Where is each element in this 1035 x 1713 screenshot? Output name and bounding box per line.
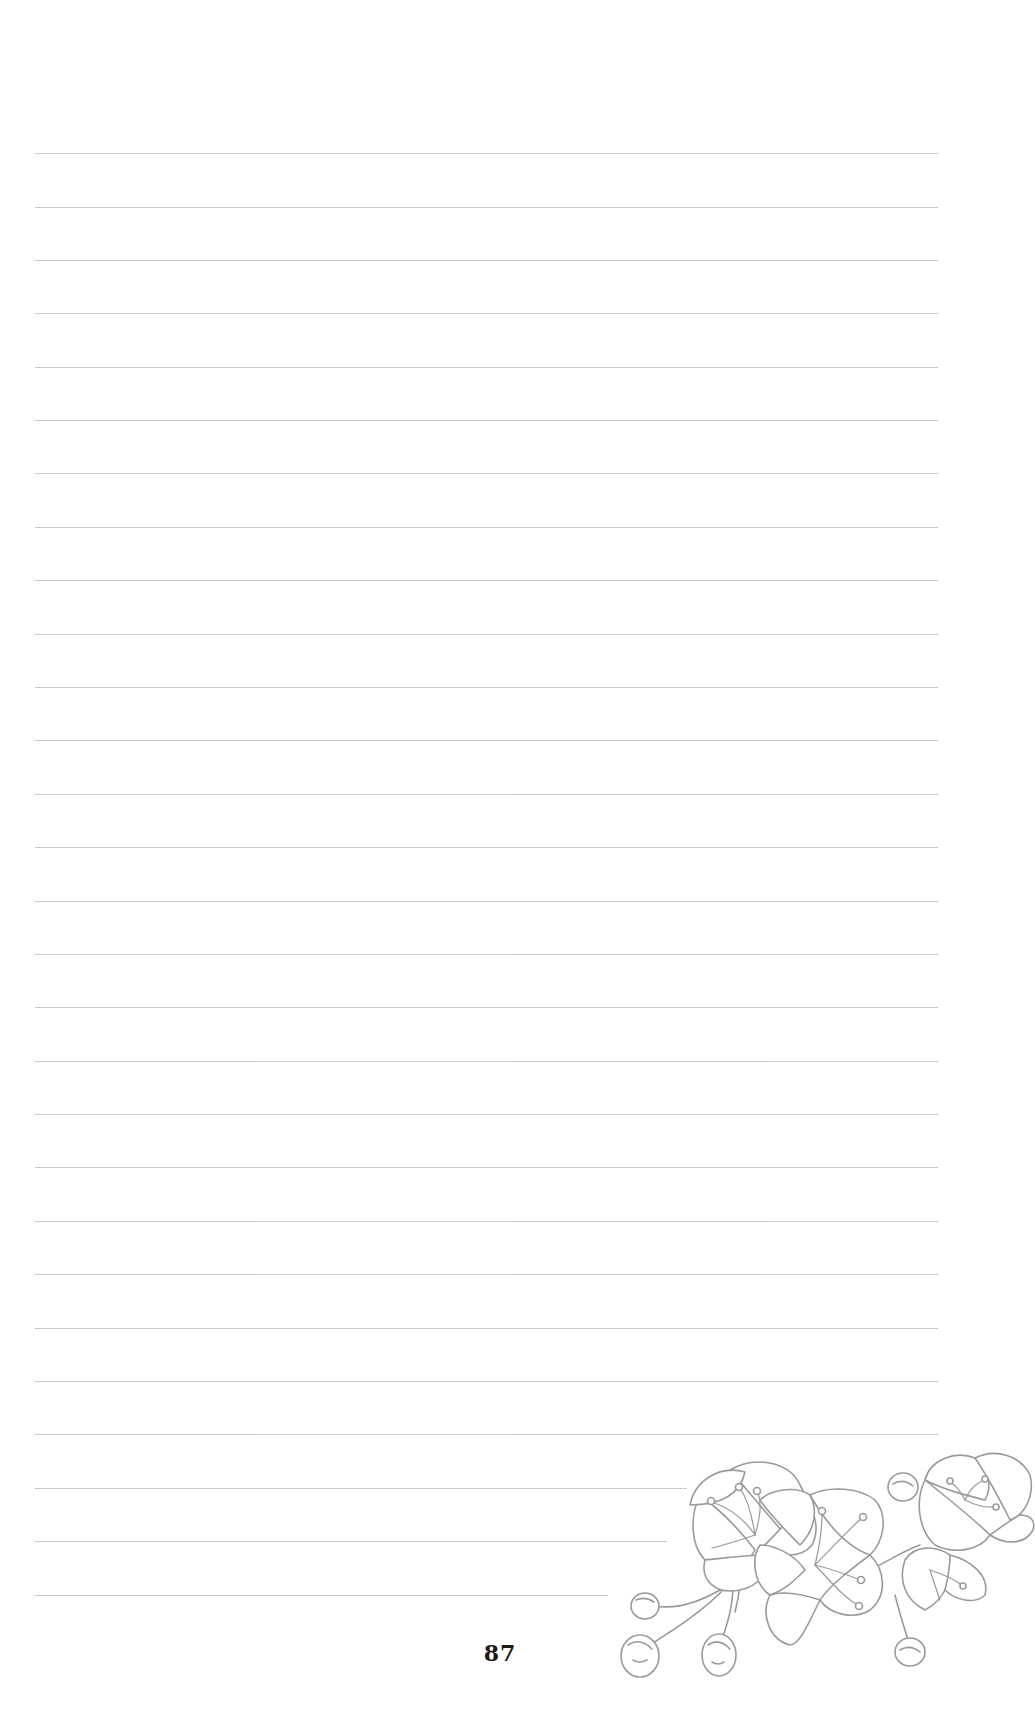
ruled-line xyxy=(35,634,938,635)
ruled-line xyxy=(35,794,938,795)
ruled-line xyxy=(35,1114,938,1115)
ruled-line xyxy=(35,207,938,208)
ruled-line xyxy=(35,260,938,261)
ruled-line xyxy=(35,313,938,314)
ruled-line xyxy=(35,420,938,421)
ruled-line xyxy=(35,1595,608,1596)
flower-icon xyxy=(902,1453,1033,1610)
flower-icon xyxy=(755,1489,883,1645)
ruled-line xyxy=(35,1381,938,1382)
ruled-line xyxy=(35,473,938,474)
ruled-line xyxy=(35,580,938,581)
ruled-line xyxy=(35,1167,938,1168)
page-number: 87 xyxy=(0,1640,1000,1666)
ruled-line xyxy=(35,954,938,955)
ruled-line xyxy=(35,1007,938,1008)
ruled-line xyxy=(35,367,938,368)
ruled-line xyxy=(35,847,938,848)
ruled-line xyxy=(35,1541,667,1542)
ruled-line xyxy=(35,901,938,902)
ruled-line xyxy=(35,153,938,154)
ruled-line xyxy=(35,687,938,688)
flower-branch-illustration xyxy=(590,1430,1035,1713)
notebook-page: 87 xyxy=(0,0,1035,1713)
ruled-line xyxy=(35,740,938,741)
ruled-line xyxy=(35,1328,938,1329)
ruled-line xyxy=(35,1221,938,1222)
ruled-line xyxy=(35,1274,938,1275)
ruled-line xyxy=(35,1061,938,1062)
ruled-line xyxy=(35,527,938,528)
